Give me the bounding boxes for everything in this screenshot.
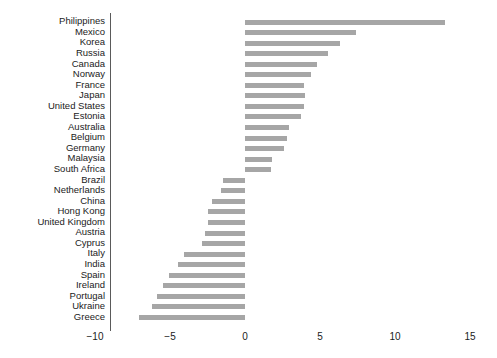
bar <box>178 262 246 267</box>
bar <box>245 136 287 141</box>
x-axis-tick-label: 5 <box>317 330 323 344</box>
bar <box>184 252 246 257</box>
bar <box>245 146 284 151</box>
bar <box>202 241 246 246</box>
bar <box>208 209 246 214</box>
bar <box>223 178 246 183</box>
bar <box>245 114 301 119</box>
x-axis-tick-label: 10 <box>389 330 400 344</box>
bar <box>205 231 246 236</box>
bar <box>157 294 246 299</box>
bar <box>245 51 328 56</box>
x-axis-tick-label: −10 <box>87 330 104 344</box>
bar <box>152 304 245 309</box>
x-axis-tick-labels: −10−5051015 <box>0 330 497 350</box>
bar <box>245 157 272 162</box>
bar <box>245 72 311 77</box>
bar <box>221 188 245 193</box>
bar <box>245 167 271 172</box>
bar <box>169 273 246 278</box>
bar <box>245 30 356 35</box>
bar <box>208 220 246 225</box>
plot-area <box>0 0 497 332</box>
bar <box>245 125 289 130</box>
bar <box>245 20 445 25</box>
bar-chart: PhilippinesMexicoKoreaRussiaCanadaNorway… <box>0 0 497 358</box>
bar <box>245 62 317 67</box>
x-axis-tick-label: 15 <box>464 330 475 344</box>
x-axis-tick-label: 0 <box>242 330 248 344</box>
bar <box>245 104 304 109</box>
bar <box>245 83 304 88</box>
x-axis-tick-label: −5 <box>164 330 175 344</box>
bar <box>245 41 340 46</box>
bar <box>245 93 305 98</box>
bar <box>163 283 246 288</box>
bar <box>139 315 246 320</box>
bar <box>212 199 245 204</box>
